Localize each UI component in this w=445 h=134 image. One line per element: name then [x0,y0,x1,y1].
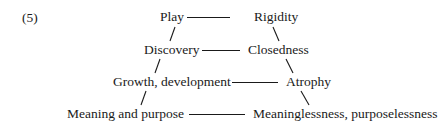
link-growth-meaning [141,91,146,105]
link-rigidity-closedness [273,27,279,41]
link-atrophy-meaninglessness [301,91,309,105]
link-play-discovery [170,27,175,41]
link-discovery-growth [155,59,160,73]
connector-lines [0,0,445,134]
link-closedness-atrophy [286,59,293,73]
